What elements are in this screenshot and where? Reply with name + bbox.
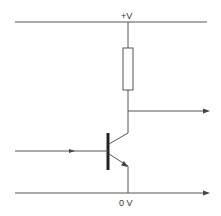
ground-arrow-icon <box>203 191 210 196</box>
input-arrow-icon <box>69 149 75 153</box>
circuit-diagram: +V 0 V <box>0 0 221 216</box>
supply-label: +V <box>121 11 132 21</box>
transistor-collector <box>109 133 128 144</box>
output-arrow-icon <box>203 109 210 114</box>
ground-label: 0 V <box>119 198 133 208</box>
resistor <box>123 48 133 90</box>
